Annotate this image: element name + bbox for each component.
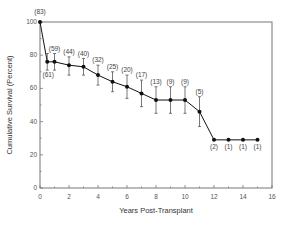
x-tick-label: 8	[154, 193, 158, 200]
x-tick-label: 6	[125, 193, 129, 200]
x-tick-label: 10	[181, 193, 189, 200]
n-at-risk-label: (5)	[196, 88, 204, 96]
data-point	[154, 98, 158, 102]
n-at-risk-label: (61)	[42, 71, 54, 79]
data-point	[53, 60, 57, 64]
chart-canvas: 0246810121416020406080100Years Post-Tran…	[0, 0, 282, 225]
x-tick-label: 2	[67, 193, 71, 200]
y-axis-title: Cumulative Survival (Percent)	[5, 55, 14, 155]
data-point	[212, 138, 216, 142]
x-axis-title: Years Post-Transplant	[119, 206, 194, 215]
n-at-risk-label: (59)	[49, 45, 61, 53]
y-tick-label: 20	[30, 151, 38, 158]
data-point	[111, 80, 115, 84]
x-tick-label: 0	[38, 193, 42, 200]
y-tick-label: 60	[30, 84, 38, 91]
n-at-risk-label: (9)	[167, 78, 175, 86]
data-point	[183, 98, 187, 102]
y-tick-label: 0	[33, 184, 37, 191]
survival-chart: 0246810121416020406080100Years Post-Tran…	[0, 0, 282, 225]
n-at-risk-label: (9)	[181, 78, 189, 86]
data-point	[96, 73, 100, 77]
data-point	[140, 91, 144, 95]
n-at-risk-label: (17)	[136, 71, 148, 79]
y-tick-label: 80	[30, 51, 38, 58]
data-point	[198, 110, 202, 114]
x-tick-label: 4	[96, 193, 100, 200]
n-at-risk-label: (1)	[225, 143, 233, 151]
x-tick-label: 14	[239, 193, 247, 200]
survival-line	[40, 22, 258, 140]
n-at-risk-label: (1)	[254, 143, 262, 151]
n-at-risk-label: (40)	[78, 50, 90, 58]
n-at-risk-label: (83)	[34, 8, 46, 16]
data-point	[82, 65, 86, 69]
y-tick-label: 40	[30, 118, 38, 125]
data-point	[38, 20, 42, 24]
y-tick-label: 100	[26, 18, 37, 25]
n-at-risk-label: (2)	[210, 143, 218, 151]
data-point	[169, 98, 173, 102]
data-point	[241, 138, 245, 142]
n-at-risk-label: (25)	[107, 63, 119, 71]
x-tick-label: 12	[210, 193, 218, 200]
x-tick-label: 16	[268, 193, 276, 200]
data-point	[227, 138, 231, 142]
n-at-risk-label: (32)	[92, 56, 104, 64]
data-point	[125, 85, 129, 89]
n-at-risk-label: (13)	[150, 78, 162, 86]
data-point	[256, 138, 260, 142]
data-point	[67, 63, 71, 67]
n-at-risk-label: (20)	[121, 66, 133, 74]
n-at-risk-label: (1)	[239, 143, 247, 151]
n-at-risk-label: (44)	[63, 48, 75, 56]
data-point	[45, 60, 49, 64]
